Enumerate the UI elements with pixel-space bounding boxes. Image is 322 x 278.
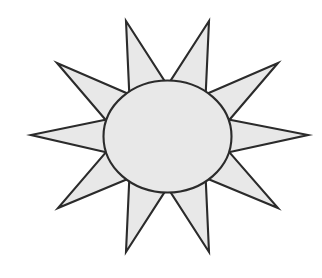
sun-illustration — [0, 0, 322, 278]
artwork-canvas — [0, 0, 322, 278]
sun-core — [104, 81, 232, 193]
